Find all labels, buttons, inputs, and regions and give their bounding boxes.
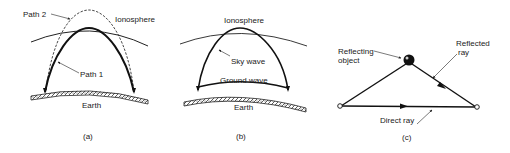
ionosphere-label-b: Ionosphere [224, 16, 265, 25]
earth-label-a: Earth [82, 101, 101, 110]
path-1-curve [45, 28, 134, 92]
ionosphere-arc-b [180, 33, 307, 46]
path-2-label: Path 2 [23, 10, 47, 19]
transmitter-node [338, 104, 343, 109]
path-1-arrow-right [132, 88, 136, 94]
caption-b: (b) [236, 132, 246, 141]
caption-c: (c) [402, 133, 412, 142]
path-1-label: Path 1 [80, 70, 104, 79]
direct-ray-line [341, 106, 476, 107]
sky-wave-arrow-left [196, 86, 200, 92]
reflecting-object [404, 55, 415, 66]
reflecting-object-highlight [406, 57, 409, 60]
reflected-ray-label-2: ray [458, 48, 469, 57]
reflecting-object-leader [374, 51, 401, 58]
path-1-leader [58, 62, 79, 73]
direct-ray-arrow [400, 104, 408, 110]
sky-wave-label: Sky wave [231, 57, 266, 66]
direct-ray-label: Direct ray [380, 116, 414, 125]
reflected-ray-leader [433, 54, 457, 78]
ground-wave-label: Ground wave [220, 76, 268, 85]
reflected-ray-incoming [341, 62, 409, 106]
propagation-diagram: Path 2 Ionosphere Path 1 Earth (a) Ionos… [0, 0, 510, 153]
panel-b: Ionosphere Sky wave Ground wave Earth (b… [180, 16, 307, 141]
ionosphere-arc [31, 31, 148, 46]
ionosphere-label-a: Ionosphere [115, 15, 156, 24]
caption-a: (a) [83, 132, 93, 141]
receiver-node [475, 105, 480, 110]
panel-c: Reflecting object Reflected ray Direct r… [338, 39, 490, 142]
path-2-leader [51, 14, 70, 19]
sky-wave-leader [219, 50, 230, 56]
reflected-ray-label-1: Reflected [456, 39, 490, 48]
reflecting-object-label-2: object [338, 56, 360, 65]
reflecting-object-label-1: Reflecting [338, 47, 374, 56]
earth-label-b: Earth [234, 103, 253, 112]
direct-ray-leader [417, 110, 432, 124]
panel-a: Path 2 Ionosphere Path 1 Earth (a) [23, 10, 156, 141]
sky-wave-arrow-right [286, 86, 290, 92]
